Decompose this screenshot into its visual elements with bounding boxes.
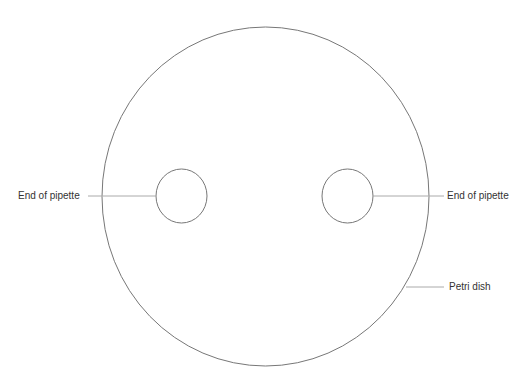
petri-dish-label: Petri dish <box>449 281 491 293</box>
right-pipette-end <box>322 169 373 223</box>
left-pipette-label: End of pipette <box>18 190 80 202</box>
left-pipette-end <box>156 169 207 223</box>
right-pipette-label: End of pipette <box>447 190 509 202</box>
